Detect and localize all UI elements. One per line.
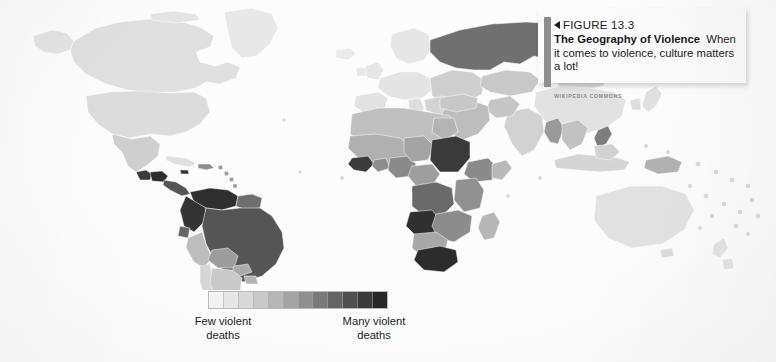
figure-caption-text: The Geography of Violence When it comes … bbox=[554, 33, 737, 74]
figure-title: The Geography of Violence bbox=[554, 33, 700, 45]
legend-swatch bbox=[209, 292, 224, 308]
legend-gradient-bar bbox=[208, 291, 388, 309]
legend-label-high: Many violent deaths bbox=[331, 314, 417, 342]
figure-credit: WIKIPEDIA COMMONS bbox=[554, 93, 622, 99]
legend-swatch bbox=[239, 292, 254, 308]
country-ecuador bbox=[178, 226, 190, 238]
caption-accent-bar bbox=[544, 17, 551, 87]
country-jamaica bbox=[180, 170, 189, 174]
legend-swatch bbox=[373, 292, 387, 308]
figure-page: FIGURE 13.3 The Geography of Violence Wh… bbox=[0, 0, 776, 362]
legend-swatch bbox=[299, 292, 314, 308]
legend-swatch bbox=[254, 292, 269, 308]
country-guianas bbox=[236, 194, 262, 210]
legend-swatch bbox=[313, 292, 328, 308]
country-ireland bbox=[356, 68, 366, 76]
legend-swatch bbox=[224, 292, 239, 308]
figure-number-label: FIGURE 13.3 bbox=[563, 19, 634, 31]
triangle-left-icon bbox=[554, 21, 560, 29]
legend-swatch bbox=[328, 292, 343, 308]
legend-swatch bbox=[284, 292, 299, 308]
legend-labels: Few violent deaths Many violent deaths bbox=[208, 314, 388, 346]
country-korea bbox=[630, 98, 641, 110]
legend-label-low: Few violent deaths bbox=[180, 314, 266, 342]
figure-number-line: FIGURE 13.3 bbox=[554, 18, 737, 32]
legend-swatch bbox=[343, 292, 358, 308]
country-tasmania bbox=[660, 248, 674, 258]
map-legend: Few violent deaths Many violent deaths bbox=[208, 291, 388, 346]
country-uruguay bbox=[244, 276, 258, 284]
legend-swatch bbox=[358, 292, 373, 308]
legend-swatch bbox=[269, 292, 284, 308]
figure-caption-box: FIGURE 13.3 The Geography of Violence Wh… bbox=[538, 8, 746, 83]
